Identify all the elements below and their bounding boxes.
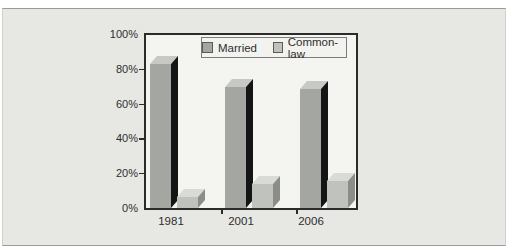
bar-common-law-2006 [327,173,355,208]
bar-married-2006 [300,81,328,208]
bar-common-law-1981 [177,189,205,208]
bar-front-face [177,197,198,208]
bar-married-2001 [225,79,253,208]
y-axis-label-60: 60% [96,98,138,111]
bar-front-face [150,64,171,208]
chart-legend: Married Common-law [201,37,347,58]
y-tick-20 [139,173,146,175]
bar-common-law-2001 [252,176,280,208]
x-axis-label-2006: 2006 [286,215,336,227]
married-swatch-icon [202,42,213,53]
legend-entry-married: Married [202,42,257,54]
y-axis-label-80: 80% [96,63,138,76]
legend-label-common-law: Common-law [288,36,346,60]
y-tick-40 [139,138,146,140]
figure-panel: Married Common-law 100% 80% 60% 40% 20% … [2,8,506,246]
x-axis-label-2001: 2001 [216,215,266,227]
y-axis-label-0: 0% [96,202,138,215]
common-law-swatch-icon [273,42,283,53]
plot-area: Married Common-law 100% 80% 60% 40% 20% … [144,33,358,210]
x-axis-label-1981: 1981 [146,215,196,227]
bar-front-face [327,181,348,208]
bar-front-face [300,89,321,208]
bar-front-face [225,87,246,208]
bar-front-face [252,184,273,208]
y-axis-label-20: 20% [96,167,138,180]
y-tick-60 [139,104,146,106]
x-tick-1 [221,210,223,214]
y-tick-80 [139,69,146,71]
y-axis-label-40: 40% [96,132,138,145]
legend-label-married: Married [218,42,257,54]
legend-entry-common-law: Common-law [273,36,346,60]
x-tick-2 [296,210,298,214]
y-axis-label-100: 100% [96,28,138,41]
bar-married-1981 [150,56,178,208]
bar-side-face [171,56,178,208]
